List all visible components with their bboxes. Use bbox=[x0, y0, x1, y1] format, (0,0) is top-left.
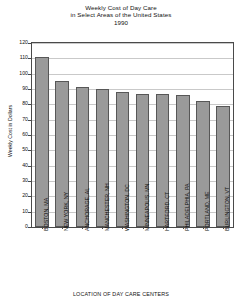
chart-title-block: Weekly Cost of Day Care in Select Areas … bbox=[0, 4, 242, 26]
chart-year: 1990 bbox=[0, 19, 242, 26]
y-tick-mark bbox=[28, 104, 31, 105]
x-tick-label: NEW YORK, NY bbox=[64, 192, 69, 231]
chart-subtitle: in Select Areas of the United States bbox=[0, 11, 242, 18]
x-tick-label: PHILADELPHIA, PA bbox=[185, 183, 190, 231]
x-tick-label: PORTLAND, ME bbox=[205, 191, 210, 231]
y-tick-label: 120 bbox=[19, 40, 28, 45]
x-axis-title: LOCATION OF DAY CARE CENTERS bbox=[0, 291, 242, 297]
y-tick-mark bbox=[28, 212, 31, 213]
x-tick-label: BURLINGTON, VT bbox=[225, 187, 230, 231]
bar-chart: Weekly Cost of Day Care in Select Areas … bbox=[0, 0, 242, 304]
y-tick-label: 110 bbox=[20, 56, 28, 61]
x-tick-label: MINNEAPOLIS, MN bbox=[145, 184, 150, 231]
y-tick-mark bbox=[28, 166, 31, 167]
y-tick-label: 100 bbox=[19, 71, 28, 76]
x-tick-label: ANCHORAGE, AL bbox=[85, 188, 90, 231]
x-tick-label: BOSTON, MA bbox=[44, 198, 49, 231]
y-tick-mark bbox=[28, 227, 31, 228]
y-tick-mark bbox=[28, 181, 31, 182]
y-tick-mark bbox=[28, 135, 31, 136]
x-tick-label: HARTFORD, CT bbox=[165, 192, 170, 231]
y-tick-mark bbox=[28, 43, 31, 44]
y-axis-title: Weekly Cost in Dollars bbox=[7, 83, 13, 179]
y-tick-mark bbox=[28, 89, 31, 90]
x-tick-label: MANCHESTER, NH bbox=[105, 183, 110, 231]
y-tick-mark bbox=[28, 74, 31, 75]
x-axis: BOSTON, MANEW YORK, NYANCHORAGE, ALMANCH… bbox=[32, 229, 233, 287]
y-tick-mark bbox=[28, 150, 31, 151]
y-tick-mark bbox=[28, 58, 31, 59]
y-tick-mark bbox=[28, 196, 31, 197]
chart-title: Weekly Cost of Day Care bbox=[0, 4, 242, 11]
y-axis: 0102030405060708090100110120 bbox=[0, 42, 31, 228]
y-tick-mark bbox=[28, 120, 31, 121]
x-tick-label: WASHINGTON, DC bbox=[125, 184, 130, 231]
